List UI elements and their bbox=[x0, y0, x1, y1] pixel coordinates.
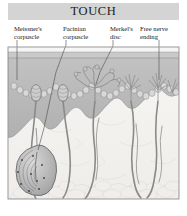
skin-cross-section-illustration bbox=[0, 0, 187, 216]
touch-receptor-figure: TOUCH Meissner's corpuscle Pacinian corp… bbox=[0, 0, 187, 216]
meissner-corpuscle-2 bbox=[58, 85, 68, 102]
meissner-corpuscle bbox=[31, 85, 41, 102]
